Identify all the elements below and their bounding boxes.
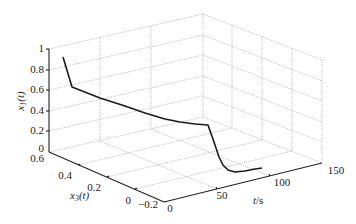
t-axis-label: t/s bbox=[253, 194, 263, 206]
svg-text:0.6: 0.6 bbox=[30, 83, 44, 95]
svg-text:0.4: 0.4 bbox=[58, 169, 72, 181]
3d-line-chart: 1 0.8 0.6 0.4 0.2 0 0.6 0.4 0.2 0 −0.2 0… bbox=[0, 0, 356, 224]
svg-text:0.2: 0.2 bbox=[87, 181, 101, 193]
svg-text:1: 1 bbox=[39, 42, 45, 54]
svg-text:0.8: 0.8 bbox=[30, 63, 44, 75]
grid-back-left-wall bbox=[49, 14, 203, 152]
z-axis-label: x1(t) bbox=[14, 91, 28, 112]
svg-text:50: 50 bbox=[217, 189, 229, 201]
x3-axis-label: x3(t) bbox=[69, 189, 90, 203]
svg-text:0: 0 bbox=[167, 202, 173, 214]
svg-text:150: 150 bbox=[328, 164, 345, 176]
z-tick-labels: 1 0.8 0.6 0.4 0.2 0 bbox=[30, 42, 44, 154]
svg-text:0: 0 bbox=[126, 194, 132, 206]
svg-text:x1(t): x1(t) bbox=[14, 91, 28, 112]
t-tick-labels: 0 50 100 150 bbox=[167, 164, 345, 214]
svg-text:x3(t): x3(t) bbox=[69, 189, 90, 203]
svg-text:100: 100 bbox=[274, 176, 291, 188]
svg-text:t/s: t/s bbox=[253, 194, 263, 206]
t-axis-line bbox=[164, 163, 322, 202]
svg-text:0.6: 0.6 bbox=[30, 152, 44, 164]
svg-text:−0.2: −0.2 bbox=[138, 198, 158, 210]
grid-back-right-wall bbox=[203, 14, 322, 163]
svg-text:0.4: 0.4 bbox=[30, 104, 44, 116]
svg-text:0.2: 0.2 bbox=[30, 124, 44, 136]
grid-floor bbox=[78, 128, 292, 189]
x3-tick-labels: 0.6 0.4 0.2 0 −0.2 bbox=[30, 152, 158, 210]
